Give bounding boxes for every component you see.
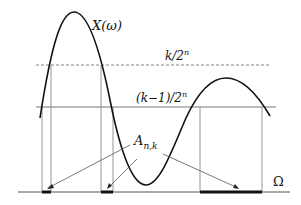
arrowhead-1: [47, 184, 54, 189]
set-label: An,k: [133, 133, 158, 151]
arrow-line-1: [48, 145, 130, 188]
arrowhead-2: [107, 183, 112, 189]
diagram-canvas: X(ω) k/2n (k−1)/2n An,k Ω: [0, 0, 301, 205]
arrow-line-3: [163, 154, 238, 188]
lower-level-label: (k−1)/2n: [136, 90, 187, 105]
curve-label: X(ω): [91, 18, 122, 33]
upper-level-label: k/2n: [165, 48, 189, 63]
axis-label: Ω: [273, 174, 284, 189]
arrowhead-3: [233, 184, 239, 189]
